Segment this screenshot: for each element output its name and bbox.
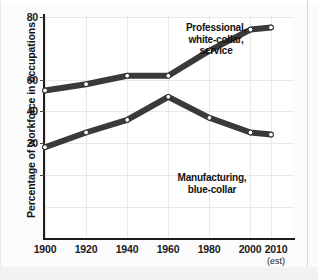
series-label-white-collar-line2: white-collar, (160, 34, 272, 46)
data-point (43, 88, 48, 93)
data-point (125, 73, 130, 78)
data-point (84, 130, 89, 135)
series-manufacturing-blue-collar (43, 94, 274, 149)
data-point (166, 73, 171, 78)
data-point (166, 94, 171, 99)
series-label-white-collar-line3: service (160, 45, 272, 57)
series-label-blue-collar: Manufacturing, blue-collar (156, 172, 268, 195)
series-label-blue-collar-line2: blue-collar (156, 184, 268, 196)
data-point (207, 115, 212, 120)
data-point (269, 132, 274, 137)
chart-figure: 80 60 40 20 Percentage of workforce in o… (0, 0, 318, 280)
data-point (43, 145, 48, 150)
series-label-white-collar: Professional, white-collar, service (160, 22, 272, 57)
series-line-blue-collar (45, 97, 271, 147)
series-label-white-collar-line1: Professional, (160, 22, 272, 34)
data-point (248, 130, 253, 135)
data-point (125, 118, 130, 123)
series-label-blue-collar-line1: Manufacturing, (156, 172, 268, 184)
data-point (84, 82, 89, 87)
